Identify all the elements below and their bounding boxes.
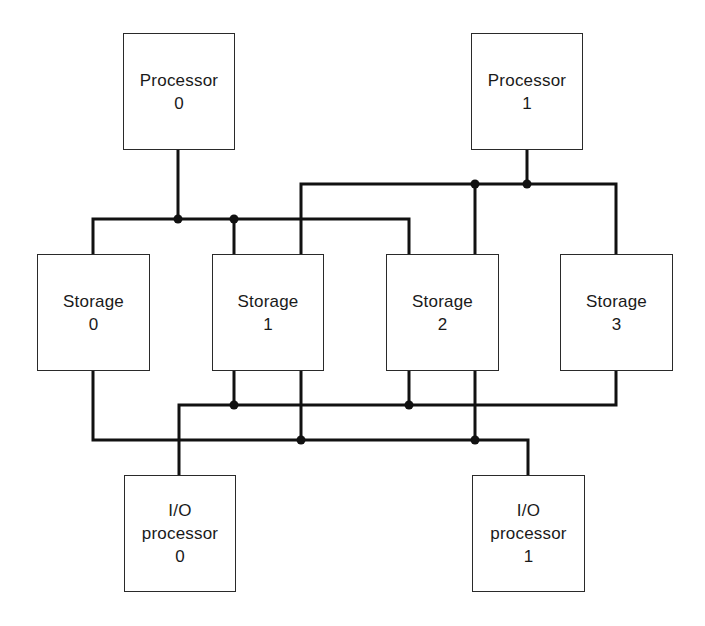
node-label: Processor <box>140 69 218 92</box>
processor-0-bus <box>93 150 409 254</box>
node-index: 1 <box>524 545 534 568</box>
node-label: I/O <box>517 499 540 522</box>
junction-dot <box>471 180 480 189</box>
node-label: Storage <box>238 290 299 313</box>
node-index: 0 <box>175 545 185 568</box>
junction-dot <box>297 436 306 445</box>
node-index: 3 <box>612 313 622 336</box>
node-label: Storage <box>412 290 473 313</box>
storage-2-box: Storage 2 <box>386 254 499 371</box>
node-label: Storage <box>586 290 647 313</box>
io-processor-0-bus <box>179 371 616 475</box>
junction-dot <box>230 401 239 410</box>
node-label: processor <box>142 522 218 545</box>
node-label: Storage <box>63 290 124 313</box>
processor-1-box: Processor 1 <box>471 33 583 150</box>
junction-dot <box>174 215 183 224</box>
node-label: Processor <box>488 69 566 92</box>
io-processor-1-box: I/O processor 1 <box>472 475 585 592</box>
io-processor-0-box: I/O processor 0 <box>124 475 236 592</box>
processor-0-box: Processor 0 <box>123 33 235 150</box>
storage-1-box: Storage 1 <box>212 254 324 371</box>
processor-1-bus <box>301 150 616 254</box>
node-index: 0 <box>174 92 184 115</box>
io-processor-1-bus <box>93 371 528 475</box>
node-index: 0 <box>89 313 99 336</box>
node-label: I/O <box>168 499 191 522</box>
node-index: 2 <box>438 313 448 336</box>
storage-0-box: Storage 0 <box>37 254 150 371</box>
junction-dot <box>230 215 239 224</box>
storage-3-box: Storage 3 <box>560 254 673 371</box>
junction-dot <box>405 401 414 410</box>
node-label: processor <box>490 522 566 545</box>
junction-dot <box>471 436 480 445</box>
junction-dot <box>523 180 532 189</box>
node-index: 1 <box>522 92 532 115</box>
node-index: 1 <box>263 313 273 336</box>
